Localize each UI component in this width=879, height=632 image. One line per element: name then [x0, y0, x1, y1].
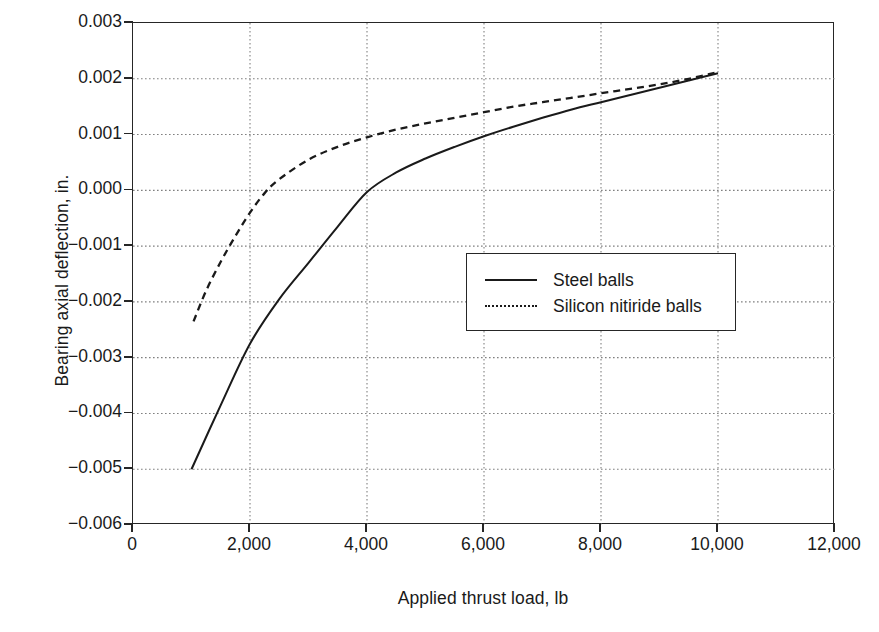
y-axis-tick-mark	[124, 189, 133, 191]
x-axis-tick-label: 4,000	[306, 534, 426, 555]
x-axis-tick-mark	[599, 523, 601, 532]
bottom-text-fragment	[0, 618, 879, 632]
y-axis-tick-mark	[124, 77, 133, 79]
x-axis-tick-mark	[716, 523, 718, 532]
y-axis-tick-mark	[124, 244, 133, 246]
x-axis-tick-label: 12,000	[774, 534, 879, 555]
x-axis-title: Applied thrust load, lb	[132, 588, 834, 609]
legend-item-silicon-nitiride-balls: Silicon nitiride balls	[485, 293, 702, 319]
x-axis-tick-mark	[365, 523, 367, 532]
x-axis-tick-mark	[482, 523, 484, 532]
y-axis-tick-label: −0.003	[12, 346, 122, 367]
legend-label: Steel balls	[553, 270, 634, 291]
y-axis-tick-mark	[124, 300, 133, 302]
y-axis-tick-mark	[124, 467, 133, 469]
figure: Bearing axial deflection, in. Applied th…	[0, 0, 879, 632]
legend-swatch-solid-line-icon	[485, 279, 537, 281]
y-axis-tick-label: −0.005	[12, 457, 122, 478]
x-axis-tick-label: 6,000	[423, 534, 543, 555]
x-axis-tick-label: 0	[72, 534, 192, 555]
x-axis-tick-mark	[131, 523, 133, 532]
y-axis-tick-label: −0.001	[12, 234, 122, 255]
legend-label: Silicon nitiride balls	[553, 296, 702, 317]
x-axis-tick-mark	[248, 523, 250, 532]
x-axis-tick-label: 8,000	[540, 534, 660, 555]
x-axis-tick-label: 10,000	[657, 534, 777, 555]
x-axis-tick-mark	[833, 523, 835, 532]
y-axis-tick-label: 0.001	[12, 123, 122, 144]
y-axis-tick-label: 0.000	[12, 178, 122, 199]
legend-swatch-dotted-line-icon	[485, 305, 537, 307]
y-axis-tick-mark	[124, 133, 133, 135]
y-axis-tick-mark	[124, 412, 133, 414]
y-axis-tick-label: 0.003	[12, 11, 122, 32]
y-axis-tick-mark	[124, 356, 133, 358]
y-axis-tick-label: −0.002	[12, 290, 122, 311]
y-axis-tick-label: −0.006	[12, 513, 122, 534]
legend-box: Steel balls Silicon nitiride balls	[466, 253, 736, 331]
legend-item-steel-balls: Steel balls	[485, 267, 634, 293]
x-axis-tick-label: 2,000	[189, 534, 309, 555]
y-axis-tick-label: 0.002	[12, 67, 122, 88]
y-axis-tick-mark	[124, 21, 133, 23]
y-axis-tick-label: −0.004	[12, 401, 122, 422]
